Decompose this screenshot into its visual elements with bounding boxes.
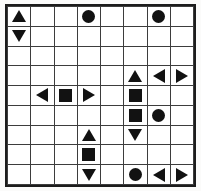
cell-content xyxy=(148,126,170,145)
grid-cell-r3-c7[interactable] xyxy=(147,46,170,66)
grid-cell-r2-c2[interactable] xyxy=(31,26,54,46)
grid-cell-r2-c5[interactable] xyxy=(101,26,124,46)
cell-content xyxy=(78,27,100,46)
cell-content xyxy=(171,7,193,26)
grid-cell-r7-c5[interactable] xyxy=(101,125,124,145)
grid-cell-r3-c5[interactable] xyxy=(101,46,124,66)
grid-cell-r7-c1[interactable] xyxy=(8,125,31,145)
filled-triangle-down-icon xyxy=(12,30,26,42)
grid-cell-r2-c1[interactable] xyxy=(8,26,31,46)
cell-content xyxy=(171,27,193,46)
grid-cell-r1-c4[interactable] xyxy=(77,7,100,27)
grid-cell-r3-c6[interactable] xyxy=(124,46,147,66)
cell-content xyxy=(148,145,170,164)
grid-cell-r1-c5[interactable] xyxy=(101,7,124,27)
cell-content xyxy=(55,66,77,85)
cell-content xyxy=(8,66,30,85)
grid-row xyxy=(8,125,194,145)
grid-cell-r1-c1[interactable] xyxy=(8,7,31,27)
grid-cell-r4-c3[interactable] xyxy=(54,66,77,86)
grid-cell-r5-c8[interactable] xyxy=(170,86,193,106)
grid-cell-r8-c3[interactable] xyxy=(54,145,77,165)
grid-cell-r6-c7[interactable] xyxy=(147,105,170,125)
grid-cell-r3-c1[interactable] xyxy=(8,46,31,66)
grid-cell-r5-c3[interactable] xyxy=(54,86,77,106)
cell-content xyxy=(55,126,77,145)
grid-cell-r6-c5[interactable] xyxy=(101,105,124,125)
grid-cell-r2-c4[interactable] xyxy=(77,26,100,46)
grid-cell-r3-c8[interactable] xyxy=(170,46,193,66)
grid-cell-r7-c8[interactable] xyxy=(170,125,193,145)
grid-cell-r4-c5[interactable] xyxy=(101,66,124,86)
grid-row xyxy=(8,7,194,27)
filled-triangle-down-icon xyxy=(128,129,142,141)
grid-cell-r6-c3[interactable] xyxy=(54,105,77,125)
grid-cell-r3-c4[interactable] xyxy=(77,46,100,66)
grid-cell-r1-c6[interactable] xyxy=(124,7,147,27)
grid-cell-r8-c4[interactable] xyxy=(77,145,100,165)
grid-cell-r9-c7[interactable] xyxy=(147,165,170,185)
grid-cell-r4-c4[interactable] xyxy=(77,66,100,86)
cell-content xyxy=(148,106,170,125)
cell-content xyxy=(8,7,30,26)
grid-cell-r8-c1[interactable] xyxy=(8,145,31,165)
filled-triangle-down-icon xyxy=(82,169,96,181)
grid-cell-r3-c3[interactable] xyxy=(54,46,77,66)
grid-cell-r6-c8[interactable] xyxy=(170,105,193,125)
grid-cell-r6-c1[interactable] xyxy=(8,105,31,125)
grid-cell-r9-c3[interactable] xyxy=(54,165,77,185)
grid-cell-r4-c7[interactable] xyxy=(147,66,170,86)
grid-cell-r9-c2[interactable] xyxy=(31,165,54,185)
grid-cell-r4-c6[interactable] xyxy=(124,66,147,86)
grid-cell-r5-c5[interactable] xyxy=(101,86,124,106)
filled-circle-icon xyxy=(82,10,95,23)
cell-content xyxy=(124,126,146,145)
grid-cell-r8-c8[interactable] xyxy=(170,145,193,165)
grid-cell-r7-c3[interactable] xyxy=(54,125,77,145)
cell-content xyxy=(148,86,170,105)
grid-cell-r8-c7[interactable] xyxy=(147,145,170,165)
cell-content xyxy=(124,106,146,125)
filled-triangle-left-icon xyxy=(153,69,165,83)
cell-content xyxy=(8,86,30,105)
grid-cell-r7-c2[interactable] xyxy=(31,125,54,145)
grid-cell-r8-c6[interactable] xyxy=(124,145,147,165)
grid-cell-r4-c2[interactable] xyxy=(31,66,54,86)
grid-cell-r1-c3[interactable] xyxy=(54,7,77,27)
grid-cell-r2-c3[interactable] xyxy=(54,26,77,46)
grid-cell-r7-c6[interactable] xyxy=(124,125,147,145)
grid-cell-r2-c8[interactable] xyxy=(170,26,193,46)
grid-cell-r6-c4[interactable] xyxy=(77,105,100,125)
grid-cell-r5-c1[interactable] xyxy=(8,86,31,106)
grid-cell-r7-c4[interactable] xyxy=(77,125,100,145)
grid-cell-r5-c4[interactable] xyxy=(77,86,100,106)
grid-cell-r3-c2[interactable] xyxy=(31,46,54,66)
grid-cell-r7-c7[interactable] xyxy=(147,125,170,145)
cell-content xyxy=(78,145,100,164)
grid-cell-r9-c6[interactable] xyxy=(124,165,147,185)
grid-cell-r8-c5[interactable] xyxy=(101,145,124,165)
grid-cell-r4-c8[interactable] xyxy=(170,66,193,86)
grid-cell-r9-c8[interactable] xyxy=(170,165,193,185)
cell-content xyxy=(8,165,30,184)
grid-cell-r5-c6[interactable] xyxy=(124,86,147,106)
grid-cell-r5-c2[interactable] xyxy=(31,86,54,106)
grid-cell-r9-c1[interactable] xyxy=(8,165,31,185)
grid-cell-r8-c2[interactable] xyxy=(31,145,54,165)
cell-content xyxy=(31,145,53,164)
grid-cell-r9-c4[interactable] xyxy=(77,165,100,185)
grid-cell-r1-c8[interactable] xyxy=(170,7,193,27)
grid-cell-r4-c1[interactable] xyxy=(8,66,31,86)
grid-cell-r5-c7[interactable] xyxy=(147,86,170,106)
grid-cell-r2-c6[interactable] xyxy=(124,26,147,46)
grid-cell-r2-c7[interactable] xyxy=(147,26,170,46)
grid-row xyxy=(8,26,194,46)
cell-content xyxy=(31,47,53,66)
cell-content xyxy=(171,47,193,66)
grid-cell-r1-c7[interactable] xyxy=(147,7,170,27)
grid-cell-r6-c6[interactable] xyxy=(124,105,147,125)
grid-cell-r1-c2[interactable] xyxy=(31,7,54,27)
filled-triangle-up-icon xyxy=(128,70,142,82)
grid-cell-r9-c5[interactable] xyxy=(101,165,124,185)
grid-cell-r6-c2[interactable] xyxy=(31,105,54,125)
